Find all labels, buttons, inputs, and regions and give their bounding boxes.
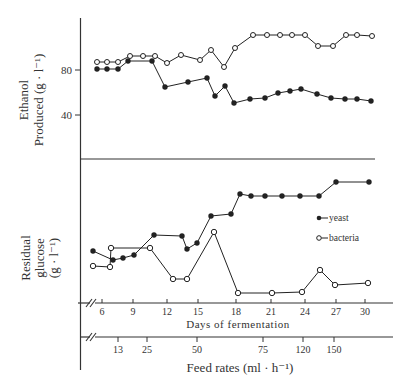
top-ylabel-line1: Ethanol xyxy=(16,79,31,120)
legend-label-yeast: yeast xyxy=(329,213,349,223)
bottom-ylabel-line3: (g · l⁻¹) xyxy=(46,238,61,278)
days-tick-label: 6 xyxy=(100,306,105,317)
top-y-ticks xyxy=(75,70,80,115)
figure: 80 40 Ethanol Produced (g · l⁻¹) Residua… xyxy=(0,0,402,389)
feed-tick-label: 75 xyxy=(258,344,268,355)
axis-break-marks xyxy=(86,299,96,341)
days-tick-label: 24 xyxy=(300,306,310,317)
days-tick-label: 18 xyxy=(231,306,241,317)
legend: yeast bacteria xyxy=(317,213,360,243)
days-tick-label: 15 xyxy=(193,306,203,317)
days-axis-label: Days of fermentation xyxy=(186,318,289,330)
ytick-40: 40 xyxy=(61,109,73,121)
days-tick-label: 27 xyxy=(331,306,341,317)
open-circle-icon xyxy=(317,236,322,241)
days-tick-label: 12 xyxy=(162,306,172,317)
feed-tick-label: 120 xyxy=(296,344,311,355)
feed-axis-label: Feed rates (ml · h⁻¹) xyxy=(187,360,294,375)
days-tick-label: 30 xyxy=(360,306,370,317)
bottom-ylabel-line1: Residual xyxy=(18,235,33,281)
filled-circle-icon xyxy=(317,216,322,221)
bottom-ylabel-line2: glucose xyxy=(32,238,47,278)
legend-label-bacteria: bacteria xyxy=(329,233,360,243)
feed-ticks xyxy=(118,337,334,342)
ytick-80: 80 xyxy=(61,64,73,76)
feed-tick-label: 150 xyxy=(327,344,342,355)
top-bacteria-series xyxy=(95,33,375,70)
top-yeast-series xyxy=(94,58,373,105)
days-tick-label: 21 xyxy=(266,306,276,317)
legend-item-bacteria: bacteria xyxy=(317,233,360,243)
feed-tick-label: 50 xyxy=(192,344,202,355)
legend-item-yeast: yeast xyxy=(317,213,349,223)
feed-tick-label: 25 xyxy=(142,344,152,355)
top-ylabel-line2: Produced (g · l⁻¹) xyxy=(31,54,46,147)
feed-tick-label: 13 xyxy=(113,344,123,355)
days-tick-label: 9 xyxy=(131,306,136,317)
